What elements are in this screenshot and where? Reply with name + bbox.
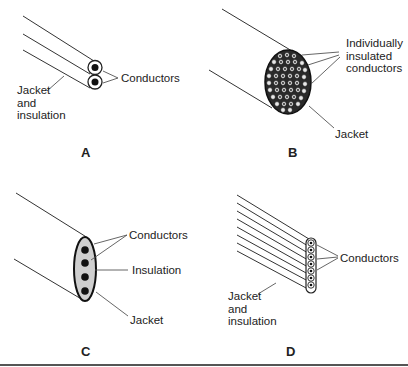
conductor-icon bbox=[81, 246, 89, 254]
conductor-icon bbox=[310, 256, 313, 259]
conductor-icon bbox=[92, 79, 99, 86]
panel-b: Individuallyinsulatedconductors Jacket B bbox=[209, 9, 403, 160]
jacket-label: Jacket bbox=[130, 314, 164, 326]
panel-label-a: A bbox=[81, 145, 91, 160]
jacket-label: Jacket bbox=[335, 128, 369, 140]
panel-a-cable bbox=[23, 16, 102, 89]
conductor-icon bbox=[310, 270, 313, 273]
panel-label-d: D bbox=[286, 344, 295, 359]
panel-label-b: B bbox=[288, 145, 297, 160]
conductor-icon bbox=[81, 259, 89, 267]
panel-d: Conductors Jacketandinsulation D bbox=[228, 195, 399, 359]
ribbon-conductors bbox=[306, 238, 316, 293]
conductor-icon bbox=[310, 249, 313, 252]
conductors-label: Conductors bbox=[340, 252, 399, 264]
conductor-icon bbox=[81, 273, 89, 281]
panel-c: Conductors Insulation Jacket C bbox=[14, 193, 188, 359]
conductor-icon bbox=[310, 242, 313, 245]
individually-insulated-conductors-label: Individuallyinsulatedconductors bbox=[346, 37, 403, 74]
cable-types-diagram: Conductors Jacketandinsulation A bbox=[0, 0, 408, 367]
conductor-icon bbox=[81, 287, 89, 295]
ribbon-lines bbox=[237, 195, 309, 289]
conductors-label: Conductors bbox=[129, 229, 188, 241]
conductors-label: Conductors bbox=[121, 72, 180, 84]
jacket-insulation-label: Jacketandinsulation bbox=[17, 84, 66, 121]
insulation-label: Insulation bbox=[132, 264, 181, 276]
panel-label-c: C bbox=[81, 344, 91, 359]
conductor-icon bbox=[310, 277, 313, 280]
conductor-icon bbox=[92, 64, 99, 71]
conductor-icon bbox=[310, 263, 313, 266]
jacket-insulation-label: Jacketandinsulation bbox=[228, 290, 277, 327]
conductor-icon bbox=[310, 284, 313, 287]
panel-a: Conductors Jacketandinsulation A bbox=[17, 16, 180, 160]
